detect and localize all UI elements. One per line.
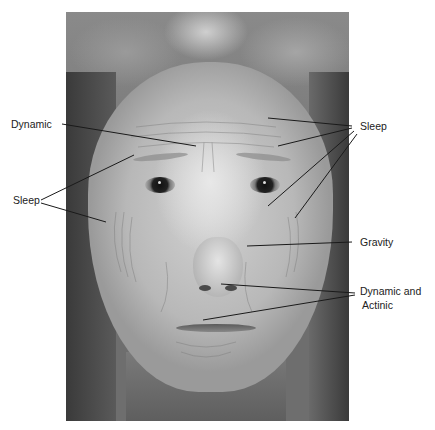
face-photograph bbox=[66, 12, 349, 421]
label-gravity: Gravity bbox=[360, 236, 393, 249]
label-sleep-right: Sleep bbox=[360, 120, 387, 133]
wrinkle-texture bbox=[66, 12, 349, 421]
label-sleep-left: Sleep bbox=[13, 194, 40, 207]
label-dynamic-forehead: Dynamic bbox=[11, 118, 52, 131]
figure: Dynamic Sleep Sleep Gravity Dynamic and … bbox=[0, 0, 435, 430]
label-actinic: Actinic bbox=[362, 299, 393, 312]
label-dynamic-and: Dynamic and bbox=[360, 285, 421, 298]
